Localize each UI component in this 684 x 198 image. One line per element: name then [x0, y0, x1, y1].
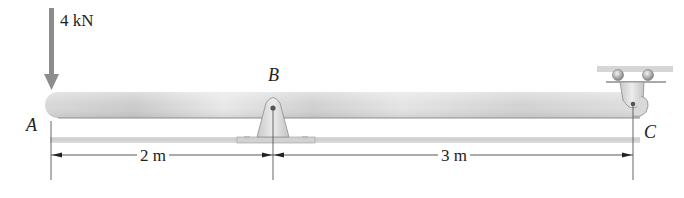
- pin-c-icon: [631, 102, 636, 107]
- beam-diagram: 4 kN A B C 2 m 3 m: [0, 0, 684, 198]
- pin-b-icon: [270, 105, 275, 110]
- ceiling-shadow: [597, 66, 673, 72]
- point-label-c: C: [644, 123, 656, 141]
- dimension-label-ab: 2 m: [137, 147, 169, 164]
- ground-shadow: [50, 137, 640, 143]
- load-arrow-icon: [44, 8, 59, 90]
- load-label: 4 kN: [60, 12, 94, 29]
- diagram-canvas: [0, 0, 684, 198]
- point-label-b: B: [268, 66, 279, 84]
- beam: [45, 92, 640, 118]
- bolt-icon: [613, 70, 624, 81]
- bolt-icon: [643, 70, 654, 81]
- point-label-a: A: [26, 116, 37, 134]
- dimension-label-bc: 3 m: [438, 147, 470, 164]
